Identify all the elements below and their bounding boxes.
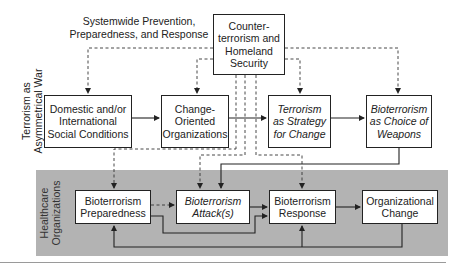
edge-ct-to-strategy bbox=[285, 59, 300, 93]
healthcare-organizations-label: Healthcare Organizations bbox=[38, 178, 64, 248]
node-social-conditions: Domestic and/or International Social Con… bbox=[44, 95, 132, 148]
node-terrorism-strategy: Terrorism as Strategy for Change bbox=[268, 95, 331, 148]
node-change-oriented-organizations: Change- Oriented Organizations bbox=[161, 95, 229, 148]
node-counterterrorism: Counter- terrorism and Homeland Security bbox=[213, 14, 285, 75]
edge-ct-to-change-orgs bbox=[197, 59, 213, 93]
node-bioterrorism-preparedness: Bioterrorism Preparedness bbox=[75, 190, 151, 224]
edge-org-change-to-preparedness bbox=[114, 224, 402, 247]
edge-ct-to-choice bbox=[285, 48, 398, 93]
node-bioterrorism-response: Bioterrorism Response bbox=[269, 190, 336, 224]
node-organizational-change: Organizational Change bbox=[362, 190, 438, 224]
edge-ct-to-social bbox=[88, 48, 213, 93]
node-bioterrorism-choice: Bioterrorism as Choice of Weapons bbox=[366, 95, 432, 148]
systemwide-label: Systemwide Prevention, Preparedness, and… bbox=[64, 15, 214, 40]
node-bioterrorism-attacks: Bioterrorism Attack(s) bbox=[176, 190, 250, 224]
asymmetrical-war-label: Terrorism as Asymmetrical War bbox=[20, 56, 46, 166]
edge-choice-to-attack bbox=[221, 148, 399, 188]
